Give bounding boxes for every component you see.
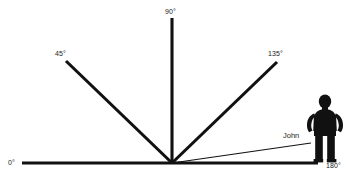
ray-45-line bbox=[66, 61, 172, 163]
ray-john-label: John bbox=[283, 131, 299, 140]
person-right-leg bbox=[327, 134, 335, 162]
ray-180-label: 180° bbox=[326, 162, 341, 169]
person-left-foot bbox=[314, 159, 324, 162]
person-figure-john bbox=[307, 95, 343, 163]
angle-diagram-canvas: 0° 45° 90° 135° 180° John bbox=[0, 0, 351, 176]
ray-135-line bbox=[172, 62, 277, 163]
ray-45-label: 45° bbox=[55, 50, 66, 57]
ray-0-label: 0° bbox=[8, 159, 15, 166]
person-torso bbox=[313, 109, 337, 131]
ray-135-label: 135° bbox=[268, 50, 283, 57]
ray-john-line bbox=[172, 143, 311, 163]
angle-diagram: 0° 45° 90° 135° 180° John bbox=[0, 0, 351, 176]
person-left-leg bbox=[315, 134, 323, 162]
ray-90-label: 90° bbox=[165, 8, 176, 15]
person-right-foot bbox=[327, 159, 337, 162]
